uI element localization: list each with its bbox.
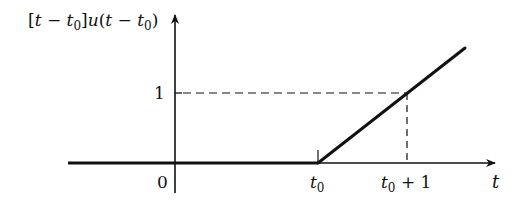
x-tick-label-t0: t0 xyxy=(310,172,324,195)
origin-label: 0 xyxy=(157,172,168,192)
x-axis-label: t xyxy=(492,171,500,192)
y-axis-label: [t − t0]u(t − t0) xyxy=(28,10,158,33)
x-tick-label-t0-plus-1: t0 + 1 xyxy=(381,172,431,195)
ramp-diagram: [t − t0]u(t − t0) 1 0 t0 t0 + 1 t xyxy=(0,0,522,201)
signal-ramp-segment xyxy=(318,48,465,163)
y-tick-label-1: 1 xyxy=(154,83,165,103)
